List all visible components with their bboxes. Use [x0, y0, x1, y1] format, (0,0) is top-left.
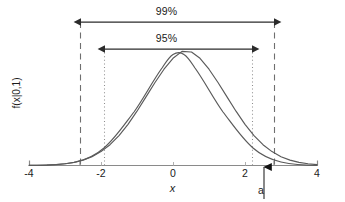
x-tick-label-plus2: 2 — [230, 168, 260, 179]
x-tick-label-zero: 0 — [158, 168, 188, 179]
x-tick-label-minus4: -4 — [14, 168, 44, 179]
x-tick-label-plus4: 4 — [302, 168, 332, 179]
interval-99-label: 99% — [0, 6, 339, 17]
x-tick-label-minus2: -2 — [86, 168, 116, 179]
normal-distribution-figure: 99% 95% f(x|0,1) x -4 -2 0 2 4 a — [0, 0, 345, 202]
y-axis-label: f(x|0,1) — [12, 48, 22, 138]
interval-95-label: 95% — [0, 33, 339, 44]
point-a-label: a — [258, 185, 264, 196]
normal-density-curve-smooth — [29, 52, 317, 165]
x-axis-label: x — [0, 183, 345, 194]
